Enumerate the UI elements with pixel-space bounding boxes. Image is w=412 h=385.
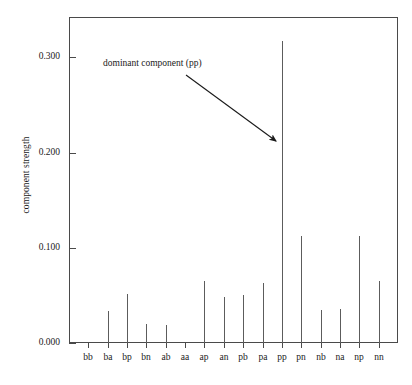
y-axis-title: component strength	[21, 105, 31, 245]
bar-nb	[321, 310, 322, 343]
y-axis-tick-label: 0.000	[20, 338, 60, 348]
x-axis-tick	[88, 343, 89, 348]
x-axis-tick	[359, 343, 360, 348]
bar-pp	[282, 41, 283, 343]
bar-an	[224, 297, 225, 343]
x-axis-tick	[204, 343, 205, 348]
x-axis-tick	[321, 343, 322, 348]
y-axis-tick	[69, 248, 76, 249]
bar-pn	[301, 236, 302, 343]
bar-pb	[243, 295, 244, 343]
bar-bn	[146, 324, 147, 343]
y-axis-tick-label: 0.100	[20, 243, 60, 253]
x-axis-tick-label-nn: nn	[367, 353, 391, 363]
bar-ap	[204, 281, 205, 343]
x-axis-tick	[282, 343, 283, 348]
bar-np	[359, 236, 360, 343]
bar-na	[340, 309, 341, 343]
bar-ba	[108, 311, 109, 343]
y-axis-tick-label: 0.200	[20, 148, 60, 158]
bar-bp	[127, 294, 128, 343]
bar-nn	[379, 281, 380, 343]
x-axis-tick	[340, 343, 341, 348]
y-axis-tick	[69, 153, 76, 154]
chart-figure: component strength 0.0000.1000.2000.300 …	[0, 0, 412, 385]
y-axis-tick	[69, 343, 76, 344]
x-axis-tick	[166, 343, 167, 348]
x-axis-tick	[263, 343, 264, 348]
y-axis-tick-label: 0.300	[20, 52, 60, 62]
x-axis-tick	[243, 343, 244, 348]
x-axis-tick	[379, 343, 380, 348]
x-axis-tick	[224, 343, 225, 348]
x-axis-tick	[108, 343, 109, 348]
x-axis-tick	[185, 343, 186, 348]
x-axis-tick	[301, 343, 302, 348]
bar-ab	[166, 325, 167, 343]
y-axis-tick	[69, 57, 76, 58]
x-axis-tick	[146, 343, 147, 348]
bar-pa	[263, 283, 264, 343]
annotation-label: dominant component (pp)	[103, 58, 202, 68]
x-axis-tick	[127, 343, 128, 348]
